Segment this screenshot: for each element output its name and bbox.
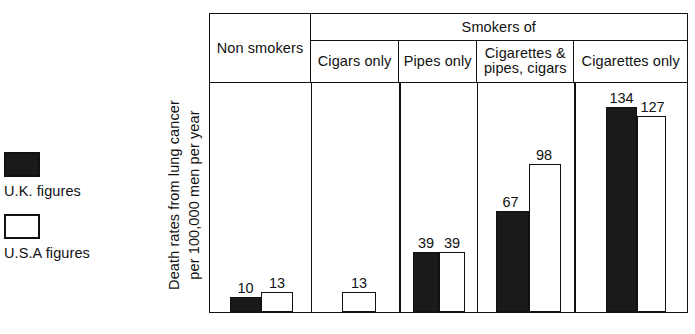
header-cigarettes-pipes-cigars-line1: Cigarettes & (485, 46, 566, 62)
column-divider-2 (399, 83, 400, 312)
header-cigarettes-pipes-cigars-line2: pipes, cigars (484, 61, 567, 77)
header-smokers-of: Smokers of (310, 13, 688, 41)
column-divider-3 (477, 83, 478, 312)
y-axis-title-line1: Death rates from lung cancer (164, 100, 184, 290)
header-cigars-only-label: Cigars only (318, 53, 392, 69)
header-non-smokers: Non smokers (209, 13, 311, 83)
bar-value-cigars-only-usa: 13 (342, 276, 376, 291)
legend-label-uk: U.K. figures (4, 183, 154, 200)
bar-cig-pipes-cigars-usa (529, 164, 561, 312)
header-cigarettes-pipes-cigars: Cigarettes & pipes, cigars (476, 40, 575, 83)
y-axis-title-text: Death rates from lung cancer per 100,000… (164, 100, 204, 290)
chart: Non smokers Smokers of Cigars only Pipes… (209, 13, 688, 313)
bar-value-pipes-only-usa: 39 (437, 236, 467, 251)
header-cigarettes-only-label: Cigarettes only (582, 53, 680, 69)
header-pipes-only: Pipes only (398, 40, 477, 83)
bar-value-non-smokers-usa: 13 (261, 276, 293, 291)
chart-header: Non smokers Smokers of Cigars only Pipes… (209, 13, 688, 83)
header-non-smokers-label: Non smokers (217, 40, 304, 56)
legend-item-usa: U.S.A figures (4, 214, 154, 262)
y-axis-title-line2: per 100,000 men per year (184, 100, 204, 290)
column-divider-4 (574, 83, 575, 312)
header-cigars-only: Cigars only (310, 40, 400, 83)
bar-cigars-only-usa (342, 292, 376, 312)
legend-swatch-filled-square (4, 152, 40, 177)
bar-value-non-smokers-uk: 10 (230, 281, 261, 296)
column-divider-1 (311, 83, 312, 312)
header-smokers-of-label: Smokers of (462, 19, 536, 35)
bar-non-smokers-usa (261, 292, 293, 312)
plot-area: 10 13 13 39 39 67 98 134 127 (209, 83, 688, 313)
header-cigarettes-only: Cigarettes only (573, 40, 688, 83)
legend-swatch-hollow-square (4, 214, 40, 239)
bar-cigarettes-only-usa (637, 116, 666, 312)
y-axis-title: Death rates from lung cancer per 100,000… (163, 85, 205, 305)
bar-cig-pipes-cigars-uk (496, 211, 529, 312)
bar-value-cig-pipes-cigars-uk: 67 (494, 195, 527, 210)
legend-item-uk: U.K. figures (4, 152, 154, 200)
bar-pipes-only-usa (439, 252, 465, 312)
bar-non-smokers-uk (230, 297, 261, 312)
bar-cigarettes-only-uk (606, 107, 637, 312)
legend-label-usa: U.S.A figures (4, 245, 154, 262)
bar-value-cig-pipes-cigars-usa: 98 (527, 148, 561, 163)
legend: U.K. figures U.S.A figures (4, 152, 154, 276)
bar-value-cigarettes-only-usa: 127 (633, 100, 672, 115)
bar-pipes-only-uk (413, 252, 439, 312)
header-pipes-only-label: Pipes only (404, 53, 472, 69)
